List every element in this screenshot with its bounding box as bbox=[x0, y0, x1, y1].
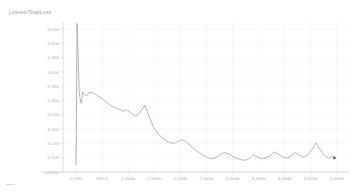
y-tick-label: 0.300 bbox=[48, 98, 60, 103]
y-tick-label: 0.500 bbox=[48, 41, 60, 46]
y-tick-label: 0.550 bbox=[48, 27, 60, 32]
y-tick-label: 0.400 bbox=[48, 70, 60, 75]
x-tick-label: 4.500k bbox=[304, 176, 318, 181]
x-tick-label: 2.500k bbox=[200, 176, 214, 181]
x-tick-label: 5.000k bbox=[330, 176, 344, 181]
x-tick-label: 4.000k bbox=[278, 176, 292, 181]
y-tick-label: 0.200 bbox=[48, 127, 60, 132]
bottom-left-artifact bbox=[6, 184, 15, 185]
vertical-gridlines bbox=[76, 22, 337, 172]
y-tick-label: 0.150 bbox=[48, 141, 60, 146]
y-tick-label: 0.100 bbox=[48, 155, 60, 160]
x-tick-label: 2.000k bbox=[174, 176, 188, 181]
y-tick-label: 0.250 bbox=[48, 112, 60, 117]
y-axis-tick-labels: 0.5500.5000.4500.4000.3500.3000.2500.200… bbox=[45, 27, 59, 175]
y-tick-label: 0.450 bbox=[48, 55, 60, 60]
x-tick-label: 1.000k bbox=[121, 176, 135, 181]
x-tick-label: 0.000 bbox=[70, 176, 82, 181]
chart-panel: Losses/TotalLoss 0.5500.5000.4500.4000.3… bbox=[0, 0, 357, 196]
series-endpoint-marker[interactable] bbox=[333, 156, 336, 159]
x-tick-label: 3.000k bbox=[226, 176, 240, 181]
x-tick-label: 1.500k bbox=[147, 176, 161, 181]
x-tick-label: 500.0 bbox=[96, 176, 108, 181]
total-loss-series-line bbox=[76, 23, 334, 164]
y-tick-label: 0.350 bbox=[48, 84, 60, 89]
x-tick-label: 3.500k bbox=[252, 176, 266, 181]
x-axis-tick-labels: 0.000500.01.000k1.500k2.000k2.500k3.000k… bbox=[70, 176, 344, 181]
loss-line-chart[interactable]: 0.5500.5000.4500.4000.3500.3000.2500.200… bbox=[0, 0, 357, 196]
